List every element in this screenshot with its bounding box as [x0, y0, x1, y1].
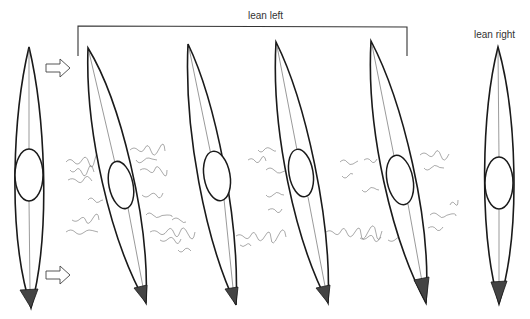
kayak-1-upright: [15, 47, 44, 308]
kayak-6-lean-right: [485, 47, 514, 304]
kayak-2-lean-left: [88, 48, 147, 303]
bow-arrow-icon: [46, 59, 70, 77]
kayak-4-lean-left: [275, 42, 330, 303]
lean-left-bracket: [78, 26, 407, 56]
stern-arrow-icon: [46, 266, 70, 284]
kayak-5-lean-left: [370, 41, 429, 303]
kayak-3-lean-left: [188, 44, 238, 305]
kayak-lean-illustration: lean left lean right: [0, 0, 530, 319]
illustration-canvas: [0, 0, 530, 319]
